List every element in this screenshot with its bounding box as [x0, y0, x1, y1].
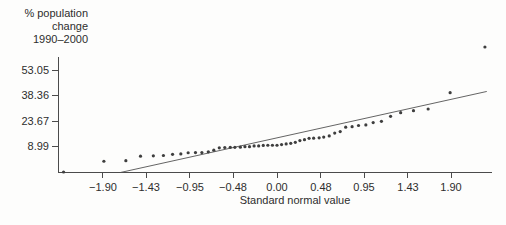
data-point: [483, 45, 486, 48]
data-point: [427, 107, 430, 110]
data-point: [200, 151, 203, 154]
data-point: [298, 139, 301, 142]
x-tick-label: −1.43: [132, 181, 160, 193]
data-point: [102, 160, 105, 163]
data-point: [312, 137, 315, 140]
data-point: [307, 137, 310, 140]
x-tick-label: 0.95: [353, 181, 374, 193]
data-point: [412, 109, 415, 112]
y-tick-label: 53.05: [21, 64, 49, 76]
y-tick-label: 23.67: [21, 115, 49, 127]
data-point: [380, 120, 383, 123]
data-point: [262, 144, 265, 147]
data-point: [318, 136, 321, 139]
data-point: [344, 126, 347, 129]
data-point: [339, 130, 342, 133]
data-point: [248, 145, 251, 148]
data-point: [243, 145, 246, 148]
x-tick-label: 0.48: [310, 181, 331, 193]
y-tick-label: 8.99: [28, 140, 49, 152]
data-point: [257, 144, 260, 147]
data-point: [179, 152, 182, 155]
data-point: [289, 142, 292, 145]
data-point: [162, 154, 165, 157]
x-tick-label: 1.43: [397, 181, 418, 193]
trend-line: [120, 91, 486, 172]
x-tick-label: 0.00: [266, 181, 287, 193]
data-point: [364, 123, 367, 126]
quantile-plot-figure: % population change 1990–2000 −1.90−1.43…: [0, 0, 506, 225]
data-point: [285, 142, 288, 145]
data-point: [303, 138, 306, 141]
data-point: [253, 144, 256, 147]
data-point: [399, 111, 402, 114]
data-point: [233, 146, 236, 149]
data-point: [449, 91, 452, 94]
data-point: [357, 124, 360, 127]
data-point: [372, 121, 375, 124]
x-axis-title: Standard normal value: [185, 194, 405, 206]
x-tick-label: −1.90: [89, 181, 117, 193]
data-point: [275, 144, 278, 147]
data-point: [271, 144, 274, 147]
data-point: [212, 149, 215, 152]
data-point: [152, 154, 155, 157]
data-point: [187, 151, 190, 154]
x-tick-label: 1.90: [440, 181, 461, 193]
data-point: [328, 134, 331, 137]
y-tick-label: 38.36: [21, 89, 49, 101]
data-point: [194, 151, 197, 154]
data-point: [322, 136, 325, 139]
data-point: [218, 146, 221, 149]
data-point: [239, 146, 242, 149]
data-point: [207, 150, 210, 153]
data-point: [229, 146, 232, 149]
data-point: [280, 143, 283, 146]
data-point: [294, 141, 297, 144]
data-point: [266, 144, 269, 147]
data-point: [62, 170, 65, 173]
data-point: [389, 115, 392, 118]
data-point: [124, 159, 127, 162]
x-tick-label: −0.95: [176, 181, 204, 193]
data-point: [333, 132, 336, 135]
data-point: [171, 153, 174, 156]
x-tick-label: −0.48: [219, 181, 247, 193]
data-point: [139, 155, 142, 158]
data-point: [223, 146, 226, 149]
plot-canvas: −1.90−1.43−0.95−0.480.000.480.951.431.90…: [0, 0, 506, 225]
data-point: [351, 125, 354, 128]
